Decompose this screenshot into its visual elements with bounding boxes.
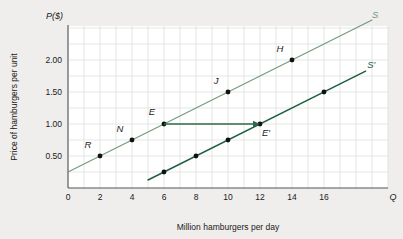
y-tick-label: 1.50 — [45, 87, 62, 97]
data-point-label: E — [149, 106, 156, 117]
y-tick-label: 1.00 — [45, 119, 62, 129]
x-tick-label: 14 — [287, 192, 297, 202]
y-tick-label: 2.00 — [45, 55, 62, 65]
x-tick-label: 2 — [98, 192, 103, 202]
x-tick-label: 0 — [66, 192, 71, 202]
data-point-marker — [194, 154, 199, 159]
data-point-label: N — [117, 123, 124, 134]
x-tick-label: 12 — [255, 192, 265, 202]
x-axis-title: Million hamburgers per day — [177, 222, 280, 232]
x-tick-label: 6 — [162, 192, 167, 202]
x-tick-label: 10 — [223, 192, 233, 202]
x-tick-label: 4 — [130, 192, 135, 202]
x-tick-label: 8 — [194, 192, 199, 202]
data-point-marker — [130, 138, 135, 143]
data-point-label: H — [277, 43, 284, 54]
grid-lines — [68, 26, 388, 188]
data-point-label: R — [85, 139, 92, 150]
y-axis-title: Price of hamburgers per unit — [9, 53, 19, 161]
data-point-marker — [226, 90, 231, 95]
data-point-marker — [322, 90, 327, 95]
supply-shift-chart: 02468101214160.501.001.502.00P($)QMillio… — [0, 0, 403, 239]
data-point-label: J — [213, 75, 219, 86]
x-tick-label: 16 — [319, 192, 329, 202]
chart-canvas: 02468101214160.501.001.502.00P($)QMillio… — [0, 0, 403, 239]
curve-label-S-prime: S′ — [367, 59, 376, 70]
y-axis-variable-label: P($) — [46, 11, 63, 21]
curve-label-S: S — [372, 9, 379, 20]
data-point-label: E′ — [262, 127, 271, 138]
data-point-marker — [226, 138, 231, 143]
data-point-marker — [290, 58, 295, 63]
x-axis-variable-label: Q — [389, 192, 396, 202]
data-point-marker — [162, 170, 167, 175]
y-tick-label: 0.50 — [45, 151, 62, 161]
data-point-marker — [98, 154, 103, 159]
